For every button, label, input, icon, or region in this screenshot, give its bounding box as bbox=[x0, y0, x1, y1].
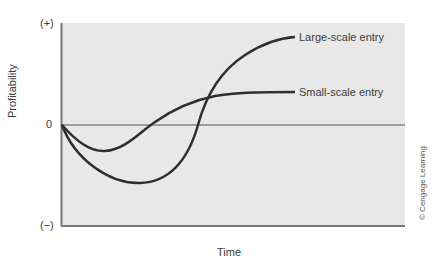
legend-small-scale: Small-scale entry bbox=[299, 86, 383, 98]
y-tick-minus: (−) bbox=[40, 219, 54, 231]
x-axis-label: Time bbox=[217, 246, 241, 258]
y-tick-zero: 0 bbox=[46, 118, 52, 130]
copyright-notice: © Cengage Learning bbox=[418, 146, 427, 220]
y-tick-plus: (+) bbox=[40, 17, 54, 29]
small-scale-curve bbox=[62, 92, 295, 151]
legend-large-scale: Large-scale entry bbox=[299, 31, 384, 43]
y-axis-label: Profitability bbox=[6, 64, 18, 118]
large-scale-curve bbox=[62, 37, 295, 183]
